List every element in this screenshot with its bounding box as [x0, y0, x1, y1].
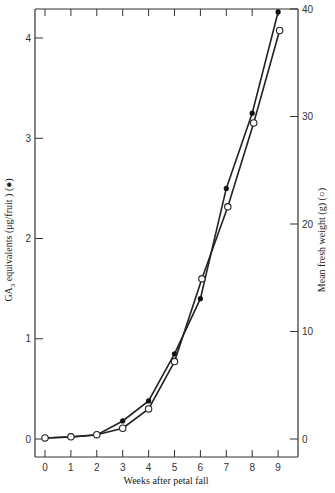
- plot-frame: [35, 9, 298, 457]
- right-y-tick-label: 10: [302, 326, 314, 337]
- left-y-tick-label: 1: [25, 333, 31, 344]
- left-y-axis: 01234: [25, 33, 43, 445]
- x-tick-label: 5: [172, 462, 178, 473]
- right-y-tick-label: 40: [302, 4, 314, 15]
- open-circle-marker: [120, 425, 126, 431]
- x-tick-label: 3: [120, 462, 126, 473]
- right-y-tick-label: 0: [302, 434, 308, 445]
- filled-circle-marker: [120, 418, 125, 423]
- left-y-tick-label: 2: [25, 233, 31, 244]
- left-y-tick-label: 3: [25, 133, 31, 144]
- open-circle-marker: [251, 120, 257, 126]
- filled-circle-marker: [146, 398, 151, 403]
- open-circle-marker: [276, 27, 282, 33]
- filled-circle-marker: [250, 111, 255, 116]
- open-circle-marker: [94, 432, 100, 438]
- x-tick-label: 0: [42, 462, 48, 473]
- x-axis: 0123456789: [42, 9, 281, 473]
- open-circle-marker: [145, 406, 151, 412]
- filled-circle-marker: [224, 186, 229, 191]
- x-tick-label: 6: [198, 462, 204, 473]
- dual-axis-line-chart: 0123456789 01234 010203040 Weeks after p…: [0, 0, 335, 493]
- x-axis-label: Weeks after petal fall: [124, 475, 209, 486]
- x-tick-label: 2: [94, 462, 100, 473]
- left-y-tick-label: 0: [25, 434, 31, 445]
- open-circle-marker: [68, 434, 74, 440]
- open-circle-marker: [199, 276, 205, 282]
- left-y-axis-label: GA3 equivalents (μg/fruit ) (●): [3, 178, 17, 301]
- right-y-tick-label: 20: [302, 219, 314, 230]
- open-circle-marker: [42, 435, 48, 441]
- right-y-tick-label: 30: [302, 111, 314, 122]
- right-y-axis-label: Mean fresh weight (g) (○): [316, 188, 328, 292]
- filled-circle-marker: [276, 9, 281, 14]
- x-tick-label: 4: [146, 462, 152, 473]
- x-tick-label: 1: [68, 462, 74, 473]
- data-series: [42, 9, 283, 441]
- left-y-tick-label: 4: [25, 33, 31, 44]
- filled-circle-marker: [198, 296, 203, 301]
- ga3-line: [45, 12, 278, 438]
- x-tick-label: 9: [275, 462, 281, 473]
- x-tick-label: 8: [249, 462, 255, 473]
- right-y-axis: 010203040: [290, 4, 314, 445]
- open-circle-marker: [171, 358, 177, 364]
- open-circle-marker: [225, 204, 231, 210]
- x-tick-label: 7: [224, 462, 230, 473]
